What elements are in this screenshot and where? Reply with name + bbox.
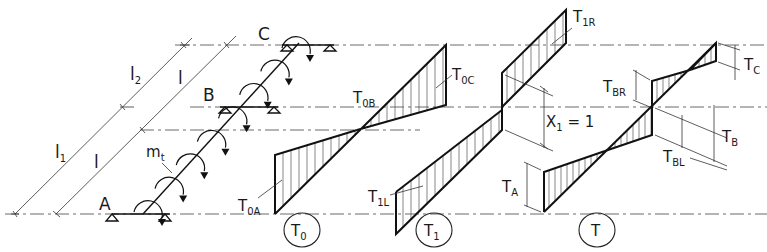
supports [106,45,336,221]
arrowhead-icon [243,125,251,132]
ta-ext [524,162,541,170]
label-tbl: TBL [662,148,685,168]
tbr-ext [633,100,650,107]
label-t0c: T0C [451,66,475,86]
label-t0b: T0B [352,89,376,109]
arrowhead-icon [285,78,293,85]
support-label-a: A [99,194,111,214]
x1-extension-top [505,75,553,96]
torsion-moment-diagram: l2 l l1 l A B C mt T0A T0B T0C [0,0,767,252]
label-t1l: T1L [367,188,390,208]
support-triangle-c-right [324,45,336,51]
dimension-label-l-upper: l [178,68,183,88]
label-tc: TC [743,56,760,76]
dimension-line-l [56,36,236,214]
t1-lower-block [396,110,502,234]
t1-diagonal [396,110,502,192]
label-t1r: T1R [572,8,596,28]
support-label-c: C [258,24,270,44]
arrowhead-icon [158,219,166,226]
dimension-label-l1: l1 [55,142,66,164]
dimension-line-l1-l2 [15,38,192,214]
tag-text: T1 [423,222,440,242]
arrowhead-icon [179,196,187,203]
arrowhead-icon [221,149,229,156]
support-label-b: B [203,85,215,105]
tb-ext-top [655,108,727,138]
label-ta: TA [501,178,518,198]
tbr-ext [633,70,650,80]
label-x1-equals-1: X1 = 1 [546,113,594,133]
tc-ext [718,62,740,70]
dimension-lines [11,36,236,217]
tag-text: T [590,222,601,240]
leader-t0a [258,180,282,198]
tag-t1: T1 [416,213,452,247]
x1-extension-bottom [505,130,553,151]
label-t0a: T0A [237,197,261,217]
arrowhead-icon [264,102,272,109]
leader-mt [162,163,172,173]
support-triangle-b-right [268,107,280,113]
load-label-mt: mt [146,143,165,163]
dimension-label-l-lower: l [94,152,99,172]
leader-t0c [436,75,452,88]
t1-upper-block [502,10,566,110]
dimension-label-l2: l2 [130,64,141,86]
tag-t: T [579,213,615,247]
label-tbr: TBR [602,78,626,98]
support-triangle-a-left [106,214,118,221]
t0-diagram [275,45,446,214]
tag-text: T0 [290,222,307,242]
arrowhead-icon [200,172,208,179]
tag-t0: T0 [284,213,320,247]
label-tb: TB [721,128,738,148]
t1-diagram [396,10,566,234]
ta-ext [524,205,541,212]
leader-t1l [390,186,423,195]
tc-ext [718,43,740,50]
arrowhead-icon [306,55,314,62]
torque-load-arcs [134,37,314,226]
t0-base [275,45,446,214]
